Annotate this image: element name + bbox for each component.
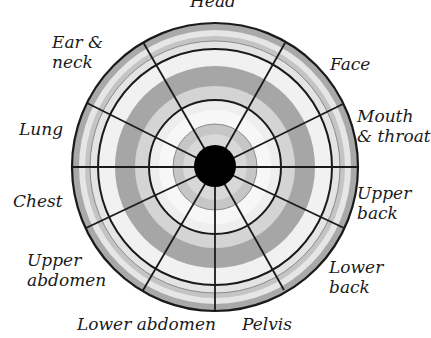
- label-upper-abdomen: Upper abdomen: [27, 250, 106, 290]
- label-lung: Lung: [19, 119, 63, 139]
- label-mouth-throat: Mouth & throat: [357, 106, 431, 146]
- label-pelvis: Pelvis: [242, 314, 292, 334]
- label-upper-back: Upper back: [357, 183, 411, 223]
- label-head: Head: [190, 0, 236, 11]
- label-face: Face: [330, 54, 370, 74]
- label-lower-abdomen: Lower abdomen: [77, 314, 216, 334]
- center-marker: [194, 145, 236, 187]
- label-chest: Chest: [13, 191, 63, 211]
- label-ear-neck: Ear & neck: [52, 32, 103, 72]
- label-lower-back: Lower back: [329, 257, 383, 297]
